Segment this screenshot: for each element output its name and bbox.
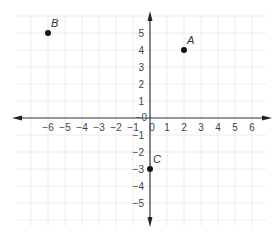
x-tick-label: 2 bbox=[181, 122, 187, 133]
y-tick-label: 4 bbox=[138, 45, 144, 56]
x-axis-arrow-left bbox=[12, 116, 22, 121]
x-tick-label: 5 bbox=[232, 122, 238, 133]
point-label-b: B bbox=[51, 17, 58, 29]
x-tick-label: −4 bbox=[76, 122, 88, 133]
x-tick-label: −3 bbox=[93, 122, 105, 133]
y-axis-arrow-down bbox=[148, 217, 153, 227]
x-tick-label: 0 bbox=[149, 122, 155, 133]
x-tick-label: −2 bbox=[110, 122, 122, 133]
point-c bbox=[147, 166, 153, 172]
y-tick-label: 1 bbox=[138, 96, 144, 107]
y-tick-label: −3 bbox=[133, 164, 145, 175]
y-tick-label: 5 bbox=[138, 28, 144, 39]
coordinate-plane: −6−5−4−3−2−10123456−5−4−3−2−1−012345 BAC bbox=[0, 0, 279, 232]
y-tick-label: 3 bbox=[138, 62, 144, 73]
x-tick-label: −6 bbox=[42, 122, 54, 133]
point-label-c: C bbox=[153, 153, 161, 165]
point-b bbox=[45, 30, 51, 36]
x-axis-arrow-right bbox=[262, 116, 272, 121]
points: BAC bbox=[45, 17, 194, 172]
x-tick-label: 1 bbox=[164, 122, 170, 133]
y-tick-label: −5 bbox=[133, 198, 145, 209]
y-tick-label: −4 bbox=[133, 181, 145, 192]
point-a bbox=[181, 47, 187, 53]
y-tick-label: −2 bbox=[133, 147, 145, 158]
point-label-a: A bbox=[186, 34, 194, 46]
y-tick-label: −1 bbox=[133, 130, 145, 141]
x-tick-label: 3 bbox=[198, 122, 204, 133]
x-tick-label: 4 bbox=[215, 122, 221, 133]
y-tick-label: −0 bbox=[136, 112, 148, 123]
x-tick-label: −5 bbox=[59, 122, 71, 133]
y-tick-label: 2 bbox=[138, 79, 144, 90]
x-tick-label: 6 bbox=[249, 122, 255, 133]
